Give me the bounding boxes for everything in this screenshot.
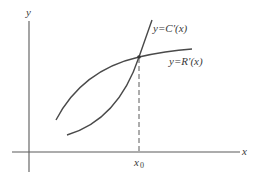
marginal-cost-label: y=C′(x): [152, 22, 188, 35]
x0-label: x0: [133, 156, 144, 170]
marginal-cost-revenue-diagram: y x x0 y=C′(x) y=R′(x): [0, 0, 257, 184]
marginal-revenue-label: y=R′(x): [168, 55, 203, 68]
y-axis-label: y: [25, 6, 31, 18]
x-axis-label: x: [241, 145, 247, 157]
